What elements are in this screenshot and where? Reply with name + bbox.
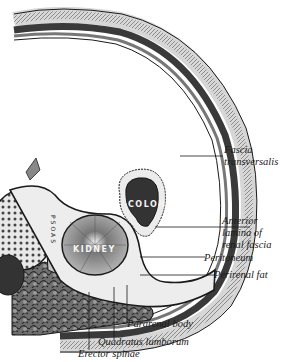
label-transversalis: transversalis	[224, 156, 278, 167]
anatomical-diagram: COLON KIDNEY PSOAS Fascia transversalis …	[0, 0, 287, 362]
label-peritoneum: Peritoneum	[204, 252, 253, 263]
colon-label: COLON	[128, 200, 166, 209]
label-erector-spinae: Erector spinae	[78, 348, 140, 359]
label-quadratus-lumborum: Quadratus lumborum	[98, 336, 189, 347]
label-pararenal-body: Pararenal body	[127, 318, 193, 329]
label-fascia: Fascia	[224, 144, 253, 155]
label-perirenal-fat: Perirenal fat	[214, 269, 268, 280]
vessel-cluster	[26, 158, 40, 180]
label-renal-fascia: renal fascia	[222, 239, 271, 250]
kidney-label: KIDNEY	[73, 245, 116, 254]
label-anterior: Anterior	[222, 215, 258, 226]
cross-section-illustration	[0, 0, 287, 362]
psoas-label: PSOAS	[50, 215, 57, 245]
label-lamina-of: lamina of	[222, 227, 262, 238]
